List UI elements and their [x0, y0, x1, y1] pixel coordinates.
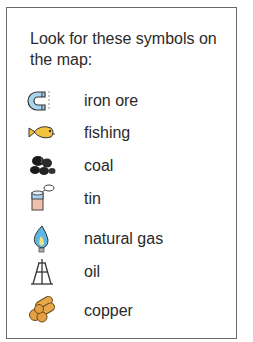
legend-item-coal: coal — [0, 151, 253, 181]
gas-flame-icon — [27, 224, 57, 254]
legend-label: natural gas — [84, 229, 163, 249]
legend-item-fishing: fishing — [0, 118, 253, 148]
copper-logs-icon — [27, 296, 57, 326]
legend-label: fishing — [84, 123, 130, 143]
legend-item-tin: tin — [0, 184, 253, 214]
legend-title: Look for these symbols on the map: — [30, 28, 240, 70]
legend-item-natural-gas: natural gas — [0, 224, 253, 254]
coal-lumps-icon — [27, 151, 57, 181]
legend-label: iron ore — [84, 91, 138, 111]
legend-label: tin — [84, 189, 101, 209]
magnet-icon — [27, 86, 57, 116]
legend-item-iron-ore: iron ore — [0, 86, 253, 116]
legend-item-copper: copper — [0, 296, 253, 326]
legend-item-oil: oil — [0, 257, 253, 287]
legend-label: copper — [84, 301, 133, 321]
tin-can-icon — [27, 184, 57, 214]
legend-label: coal — [84, 156, 113, 176]
oil-derrick-icon — [27, 257, 57, 287]
legend-label: oil — [84, 262, 100, 282]
fish-icon — [27, 118, 57, 148]
